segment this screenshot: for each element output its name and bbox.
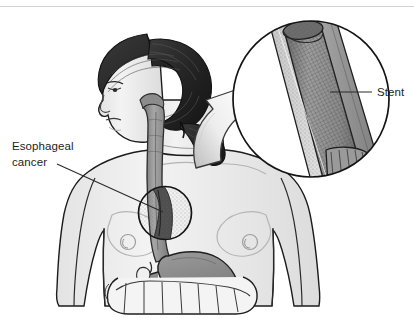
label-esophageal-cancer-line2: cancer: [12, 156, 47, 168]
medical-illustration: Esophageal cancer Stent: [0, 0, 414, 318]
large-intestine: [105, 277, 257, 314]
label-stent: Stent: [377, 86, 405, 98]
illustration-figure: Esophageal cancer Stent: [0, 0, 414, 318]
label-esophageal-cancer-line1: Esophageal: [12, 140, 74, 152]
eye-pupil: [113, 88, 118, 92]
